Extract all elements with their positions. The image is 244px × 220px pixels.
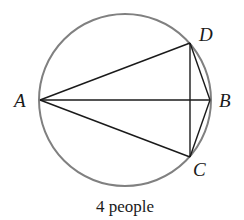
point-label-b: B [219, 90, 231, 111]
point-label-a: A [12, 90, 26, 111]
point-label-c: C [193, 159, 206, 180]
diagram-canvas: ABCD 4 people [0, 0, 244, 220]
edges-group [40, 43, 210, 157]
edge-ac [40, 100, 190, 157]
caption: 4 people [96, 197, 154, 216]
edge-ad [40, 43, 190, 100]
point-label-d: D [198, 24, 213, 45]
